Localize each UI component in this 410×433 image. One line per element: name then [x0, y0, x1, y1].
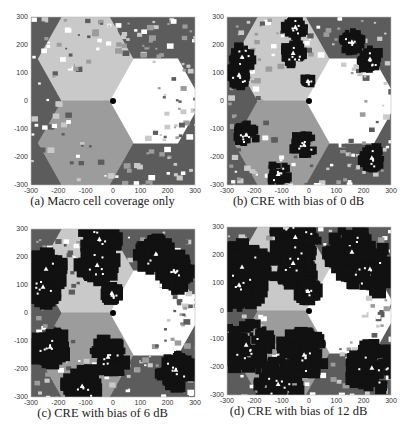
y-tick-label: 200 [198, 251, 224, 259]
y-tick-label: 300 [198, 223, 224, 231]
macro-base-station-marker [110, 98, 116, 104]
caption-d: (d) CRE with bias of 12 dB [196, 404, 401, 419]
y-tick-label: 0 [198, 307, 224, 315]
x-tick-label: 200 [352, 187, 376, 195]
x-tick-label: -200 [242, 187, 266, 195]
x-tick-label: 200 [156, 399, 180, 407]
y-tick-label: -200 [2, 365, 28, 373]
panel-d: (d) CRE with bias of 12 dB 3002001000-10… [196, 210, 401, 426]
x-tick-label: -200 [242, 397, 266, 405]
y-tick-label: 100 [198, 69, 224, 77]
y-tick-label: 300 [2, 13, 28, 21]
x-tick-label: 0 [101, 187, 125, 195]
coverage-map-d [196, 210, 401, 426]
x-tick-label: 100 [128, 187, 152, 195]
x-tick-label: 0 [101, 399, 125, 407]
y-tick-label: -100 [198, 335, 224, 343]
macro-base-station-marker [110, 310, 116, 316]
x-tick-label: 200 [156, 187, 180, 195]
x-tick-label: -100 [270, 187, 294, 195]
caption-c: (c) CRE with bias of 6 dB [0, 406, 205, 421]
x-tick-label: -300 [215, 187, 239, 195]
x-tick-label: -200 [46, 187, 70, 195]
y-tick-label: 0 [198, 97, 224, 105]
y-tick-label: 100 [198, 279, 224, 287]
x-tick-label: -100 [74, 187, 98, 195]
x-tick-label: -300 [19, 399, 43, 407]
x-tick-label: -300 [19, 187, 43, 195]
x-tick-label: 200 [352, 397, 376, 405]
x-tick-label: 100 [324, 397, 348, 405]
y-tick-label: 200 [2, 41, 28, 49]
x-tick-label: -100 [270, 397, 294, 405]
y-tick-label: 0 [2, 309, 28, 317]
y-tick-label: -200 [198, 363, 224, 371]
x-tick-label: 100 [324, 187, 348, 195]
x-tick-label: 100 [128, 399, 152, 407]
y-tick-label: -100 [2, 125, 28, 133]
x-tick-label: -200 [46, 399, 70, 407]
y-tick-label: 200 [198, 41, 224, 49]
x-tick-label: 300 [379, 397, 403, 405]
y-tick-label: -100 [198, 125, 224, 133]
macro-base-station-marker [306, 98, 312, 104]
caption-b: (b) CRE with bias of 0 dB [196, 194, 401, 209]
panel-a: (a) Macro cell coverage only 3002001000-… [0, 0, 205, 216]
y-tick-label: 300 [198, 13, 224, 21]
panel-c: (c) CRE with bias of 6 dB 3002001000-100… [0, 212, 205, 428]
y-tick-label: 0 [2, 97, 28, 105]
y-tick-label: 200 [2, 253, 28, 261]
x-tick-label: -100 [74, 399, 98, 407]
x-tick-label: 0 [297, 397, 321, 405]
x-tick-label: -300 [215, 397, 239, 405]
y-tick-label: -200 [198, 153, 224, 161]
coverage-map-c [0, 212, 205, 428]
panel-b: (b) CRE with bias of 0 dB 3002001000-100… [196, 0, 401, 216]
y-tick-label: 100 [2, 281, 28, 289]
y-tick-label: -200 [2, 153, 28, 161]
macro-base-station-marker [306, 308, 312, 314]
x-tick-label: 300 [379, 187, 403, 195]
x-tick-label: 0 [297, 187, 321, 195]
y-tick-label: 300 [2, 225, 28, 233]
coverage-map-a [0, 0, 205, 216]
coverage-map-b [196, 0, 401, 216]
caption-a: (a) Macro cell coverage only [0, 194, 205, 209]
y-tick-label: -100 [2, 337, 28, 345]
y-tick-label: 100 [2, 69, 28, 77]
